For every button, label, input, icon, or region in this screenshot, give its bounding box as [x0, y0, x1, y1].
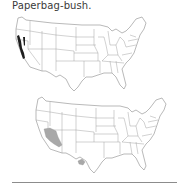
us-map-graphic [32, 95, 172, 177]
native-range-map [12, 15, 152, 95]
page-title: Paperbag-bush. [12, 0, 92, 12]
distribution-map [32, 95, 172, 177]
us-map-graphic [12, 15, 152, 95]
separator-line [12, 182, 177, 183]
